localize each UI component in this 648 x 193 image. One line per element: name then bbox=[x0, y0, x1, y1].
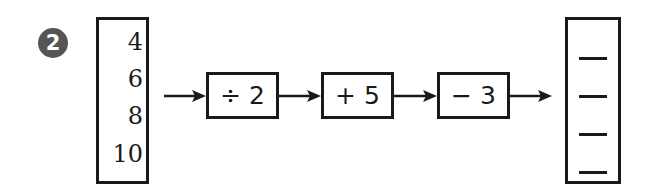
input-value: 10 bbox=[99, 140, 143, 168]
answer-blank[interactable] bbox=[579, 57, 607, 60]
answer-blank[interactable] bbox=[579, 95, 607, 98]
input-value: 4 bbox=[99, 28, 143, 56]
arrow-right-icon bbox=[279, 88, 321, 104]
output-column-box bbox=[565, 17, 621, 184]
problem-number-badge: 2 bbox=[38, 28, 68, 58]
arrow-right-icon bbox=[510, 88, 552, 104]
input-value: 6 bbox=[99, 65, 143, 93]
operation-subtract-box: − 3 bbox=[437, 72, 510, 119]
answer-blank[interactable] bbox=[579, 133, 607, 136]
operation-add-box: + 5 bbox=[321, 72, 394, 119]
input-column-box: 4 6 8 10 bbox=[96, 17, 149, 184]
input-value: 8 bbox=[99, 102, 143, 130]
operation-divide-box: ÷ 2 bbox=[206, 72, 279, 119]
arrow-right-icon bbox=[394, 88, 437, 104]
answer-blank[interactable] bbox=[579, 171, 607, 174]
arrow-right-icon bbox=[164, 88, 206, 104]
